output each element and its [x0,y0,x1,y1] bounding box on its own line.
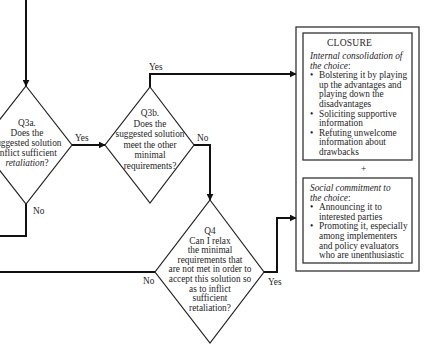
social-bullet-announcing: • Announcing it to interested parties [310,203,410,222]
bullet-line: drawbacks [319,148,410,158]
closure-title: CLOSURE [327,37,372,48]
q3a-line: suggested solution [0,138,78,148]
q4-question-text: Q4 Can I relax the minimal requirements … [155,227,265,313]
bullet-icon: • [310,110,313,120]
bullet-icon: • [310,71,313,81]
q3a-yes-label: Yes [75,133,89,143]
bullet-icon: • [310,203,313,213]
q3a-line: Does the [0,128,78,138]
internal-heading-colon: : [348,61,351,71]
q4-line: retaliation? [155,304,265,314]
social-heading-text: the choice [310,193,348,203]
q3a-question-mark: ? [44,158,48,168]
bullet-line: who are unenthusiastic [319,251,410,261]
internal-bullet-refuting: • Refuting unwelcome information about d… [310,129,410,158]
q3a-no-label: No [33,206,44,216]
q3a-no-connector [0,204,26,236]
internal-bullet-soliciting: • Soliciting supportive information [310,110,410,129]
q3b-line: Does the [100,119,200,130]
social-heading-colon: : [348,193,351,203]
q3b-line: suggested solution [100,129,200,140]
internal-consolidation-text: Internal consolidation of the choice: • … [310,52,410,158]
plus-sign: + [361,164,366,174]
q3b-no-label: No [197,133,208,143]
q3b-line: requirements? [100,161,200,172]
q3a-line: inflict sufficient [0,148,78,158]
q4-yes-arrow [264,218,296,272]
q3a-label: Q3a. [0,118,78,128]
q3b-line: meet the other [100,140,200,151]
q3a-line: retaliation? [0,158,78,168]
q3a-question-text: Q3a. Does the suggested solution inflict… [0,118,78,168]
q3b-yes-arrow [150,74,296,87]
bullet-icon: • [310,222,313,232]
q3b-line: minimal [100,150,200,161]
social-bullet-promoting: • Promoting it, especially among impleme… [310,222,410,260]
bullet-icon: • [310,129,313,139]
internal-bullet-bolstering: • Bolstering it by playing up the advant… [310,71,410,109]
social-commitment-text: Social commitment to the choice: • Annou… [310,184,410,261]
q4-yes-label: Yes [268,277,282,287]
q3b-yes-label: Yes [149,62,163,72]
q3b-question-text: Q3b. Does the suggested solution meet th… [100,108,200,171]
q3a-italic-word: retaliation [5,158,44,168]
q3b-label: Q3b. [100,108,200,119]
internal-heading-text: the choice [310,61,348,71]
q4-no-label: No [143,276,154,286]
